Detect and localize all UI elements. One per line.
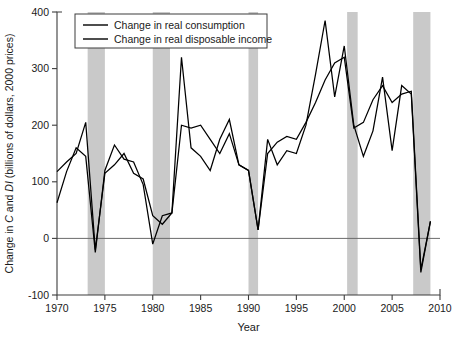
series-line xyxy=(57,57,430,269)
x-tick-label: 1985 xyxy=(189,302,213,314)
y-tick-label: 100 xyxy=(31,175,49,187)
x-tick-label: 2000 xyxy=(333,302,357,314)
y-tick-label: 400 xyxy=(31,6,49,18)
y-tick-label: 200 xyxy=(31,119,49,131)
chart-figure: -100010020030040019701975198019851990199… xyxy=(0,0,468,339)
x-tick-label: 1975 xyxy=(93,302,117,314)
legend-label: Change in real disposable income xyxy=(114,33,272,45)
y-tick-label: -100 xyxy=(28,289,49,301)
legend-label: Change in real consumption xyxy=(114,19,245,31)
recession-band xyxy=(413,12,430,295)
recession-band xyxy=(153,12,170,295)
y-tick-label: 300 xyxy=(31,62,49,74)
y-axis-title: Change in C and DI (billions of dollars,… xyxy=(3,34,15,274)
recession-band xyxy=(347,12,358,295)
x-tick-label: 1970 xyxy=(45,302,69,314)
x-tick-label: 1990 xyxy=(237,302,261,314)
series-line xyxy=(57,20,430,272)
y-tick-label: 0 xyxy=(43,232,49,244)
x-tick-label: 1980 xyxy=(141,302,165,314)
recession-band xyxy=(249,12,259,295)
x-tick-label: 2005 xyxy=(380,302,404,314)
chart-svg: -100010020030040019701975198019851990199… xyxy=(0,0,468,339)
x-tick-label: 1995 xyxy=(285,302,309,314)
x-axis-title: Year xyxy=(237,321,260,333)
x-tick-label: 2010 xyxy=(428,302,452,314)
recession-band xyxy=(88,12,105,295)
